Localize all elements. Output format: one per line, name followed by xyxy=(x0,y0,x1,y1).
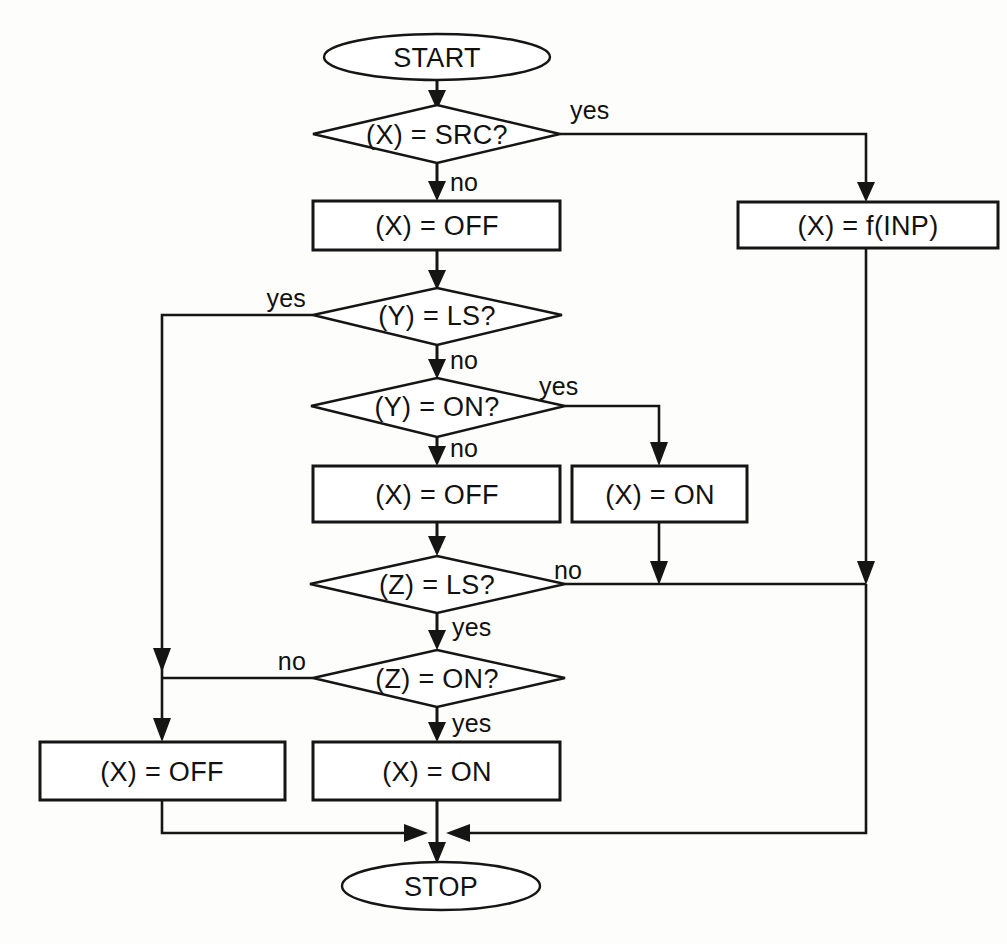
edge-line xyxy=(162,800,422,833)
edge-y-ls-no-to-y-on xyxy=(428,345,446,379)
node-start[interactable]: START xyxy=(324,34,550,80)
edge-x-on-mid-to-merge-bus xyxy=(650,522,668,585)
edge-label-y-on-yes: yes xyxy=(539,372,579,400)
edge-x-off-top-to-y-ls xyxy=(428,250,446,290)
flowchart-canvas: START (X) = SRC? (X) = f(INP) (X) = OFF … xyxy=(0,0,1007,944)
arrowhead xyxy=(428,722,446,742)
edge-z-on-yes-to-x-on-bottom xyxy=(428,707,446,742)
edge-line xyxy=(162,315,313,678)
arrowhead xyxy=(404,824,428,842)
node-stop[interactable]: STOP xyxy=(342,862,540,910)
node-process-x-finp[interactable]: (X) = f(INP) xyxy=(738,202,998,248)
node-process-x-on-bottom[interactable]: (X) = ON xyxy=(313,742,560,800)
process-x-finp-label: (X) = f(INP) xyxy=(798,211,939,241)
node-decision-z-on[interactable]: (Z) = ON? xyxy=(313,650,565,707)
edge-x-on-bottom-to-stop xyxy=(428,800,446,864)
decision-z-ls-label: (Z) = LS? xyxy=(379,570,495,600)
arrowhead xyxy=(153,648,171,672)
process-x-on-mid-label: (X) = ON xyxy=(605,480,715,510)
decision-y-ls-label: (Y) = LS? xyxy=(378,301,496,331)
node-process-x-off-mid[interactable]: (X) = OFF xyxy=(313,466,560,522)
edge-x-finp-to-right-rail xyxy=(857,248,875,585)
arrowhead xyxy=(428,536,446,556)
edge-label-z-on-no: no xyxy=(278,647,306,675)
arrowhead-lower xyxy=(153,718,171,742)
stop-label: STOP xyxy=(404,872,478,902)
edge-label-x-src-no: no xyxy=(450,168,478,196)
node-process-x-on-mid[interactable]: (X) = ON xyxy=(572,466,747,522)
process-x-on-bottom-label: (X) = ON xyxy=(382,757,492,787)
node-process-x-off-top[interactable]: (X) = OFF xyxy=(313,201,560,250)
edge-y-on-no-to-x-off-mid xyxy=(428,437,446,466)
arrowhead xyxy=(650,561,668,585)
decision-z-on-label: (Z) = ON? xyxy=(375,664,498,694)
node-decision-y-ls[interactable]: (Y) = LS? xyxy=(313,288,562,345)
edge-label-y-ls-no: no xyxy=(450,346,478,374)
edge-line xyxy=(565,406,659,458)
edge-label-z-ls-yes: yes xyxy=(452,613,492,641)
node-decision-x-src[interactable]: (X) = SRC? xyxy=(313,105,560,163)
decision-y-on-label: (Y) = ON? xyxy=(375,392,500,422)
arrowhead xyxy=(857,182,875,202)
process-x-off-top-label: (X) = OFF xyxy=(375,211,498,241)
edge-x-src-no-to-x-off-top xyxy=(428,163,446,201)
process-x-off-bottom-label: (X) = OFF xyxy=(100,757,223,787)
arrowhead xyxy=(428,842,446,864)
flowchart-svg: START (X) = SRC? (X) = f(INP) (X) = OFF … xyxy=(0,0,1007,944)
arrowhead xyxy=(428,359,446,379)
edge-label-z-ls-no: no xyxy=(554,556,582,584)
edge-label-y-on-no: no xyxy=(450,434,478,462)
decision-x-src-label: (X) = SRC? xyxy=(366,120,508,150)
edge-x-src-yes-to-x-finp xyxy=(560,134,875,202)
edge-x-off-mid-to-z-ls xyxy=(428,522,446,556)
node-process-x-off-bottom[interactable]: (X) = OFF xyxy=(40,742,285,800)
edge-y-on-yes-to-x-on-mid xyxy=(565,406,668,466)
arrowhead xyxy=(428,446,446,466)
edge-label-x-src-yes: yes xyxy=(570,96,610,124)
arrowhead xyxy=(446,824,470,842)
edge-label-y-ls-yes: yes xyxy=(266,284,306,312)
edge-x-off-bottom-to-stop-bus xyxy=(162,800,428,842)
edge-label-z-on-yes: yes xyxy=(452,709,492,737)
node-decision-y-on[interactable]: (Y) = ON? xyxy=(311,378,565,437)
process-x-off-mid-label: (X) = OFF xyxy=(375,480,498,510)
node-decision-z-ls[interactable]: (Z) = LS? xyxy=(310,556,565,613)
edge-right-rail-to-stop-bus xyxy=(446,584,866,842)
arrowhead xyxy=(428,630,446,650)
edge-z-ls-yes-to-z-on xyxy=(428,613,446,650)
start-label: START xyxy=(393,43,481,73)
arrowhead xyxy=(428,181,446,201)
edge-line xyxy=(560,134,866,194)
arrowhead xyxy=(857,561,875,585)
arrowhead xyxy=(650,442,668,466)
